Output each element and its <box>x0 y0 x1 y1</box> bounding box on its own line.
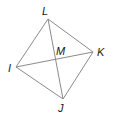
vertex-label-J: J <box>57 102 64 114</box>
vertex-label-L: L <box>42 5 48 17</box>
edge-KJ <box>63 52 93 99</box>
edge-IL <box>16 19 48 67</box>
vertex-label-K: K <box>97 46 105 58</box>
intersection-label-M: M <box>56 45 66 57</box>
edge-LK <box>48 19 93 52</box>
diagonals <box>16 19 93 99</box>
quadrilateral-diagram: L K J I M <box>0 0 114 117</box>
edge-JI <box>16 67 63 99</box>
vertex-label-I: I <box>8 62 11 74</box>
